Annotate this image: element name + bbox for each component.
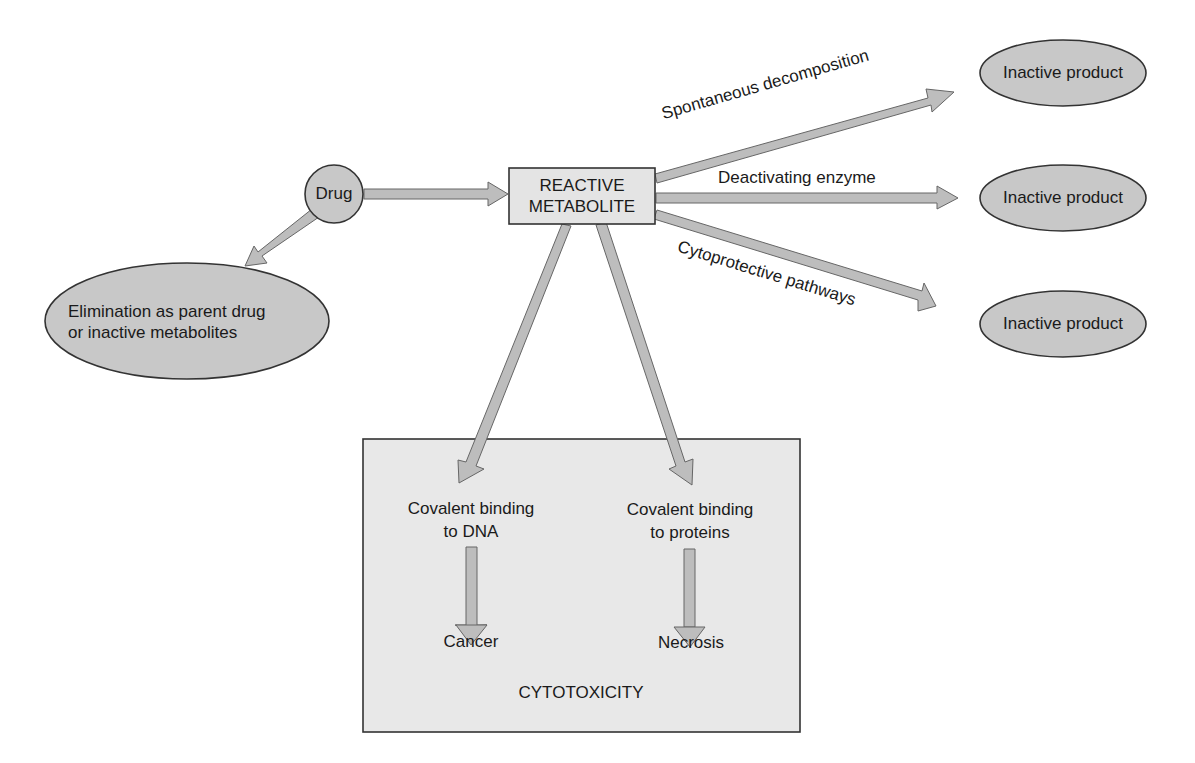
inactive-product-label-1: Inactive product (980, 63, 1146, 83)
arrow-deactivating (656, 186, 958, 209)
arrow-drug-to-elimination (245, 209, 319, 266)
protein-binding-label: Covalent binding to proteins (600, 498, 780, 544)
reactive-metabolite-label: REACTIVE METABOLITE (509, 175, 655, 217)
cytotoxicity-title: CYTOTOXICITY (481, 683, 681, 703)
necrosis-label: Necrosis (641, 633, 741, 653)
cancer-label: Cancer (421, 632, 521, 652)
dna-binding-line1: Covalent binding (383, 497, 559, 520)
diagram-canvas (0, 0, 1195, 763)
arrow-proteins-to-necrosis (684, 549, 695, 627)
drug-label: Drug (305, 184, 363, 204)
dna-binding-label: Covalent binding to DNA (383, 497, 559, 543)
edge-label-deactivating: Deactivating enzyme (718, 168, 876, 188)
inactive-product-label-2: Inactive product (980, 188, 1146, 208)
reactive-metabolite-line1: REACTIVE (509, 175, 655, 196)
inactive-product-label-3: Inactive product (980, 314, 1146, 334)
dna-binding-line2: to DNA (383, 520, 559, 543)
protein-binding-line1: Covalent binding (600, 498, 780, 521)
protein-binding-line2: to proteins (600, 521, 780, 544)
reactive-metabolite-line2: METABOLITE (509, 196, 655, 217)
elimination-line2: or inactive metabolites (68, 322, 308, 343)
elimination-label: Elimination as parent drug or inactive m… (68, 301, 308, 343)
elimination-line1: Elimination as parent drug (68, 301, 308, 322)
arrow-drug-to-metabolite (364, 182, 508, 206)
